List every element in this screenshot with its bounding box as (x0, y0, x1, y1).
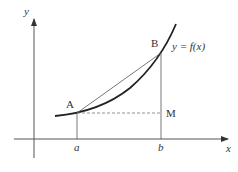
secant-diagram: y x A B M a b y = f(x) (0, 0, 238, 172)
point-m-label: M (166, 107, 176, 119)
curve-label: y = f(x) (171, 40, 205, 53)
tick-b-label: b (158, 141, 164, 153)
tick-a-label: a (74, 141, 80, 153)
point-b-label: B (151, 37, 158, 49)
secant-line-ab (77, 53, 161, 113)
y-axis-label: y (23, 5, 29, 17)
point-a-label: A (66, 98, 74, 110)
x-axis-label: x (225, 142, 231, 154)
